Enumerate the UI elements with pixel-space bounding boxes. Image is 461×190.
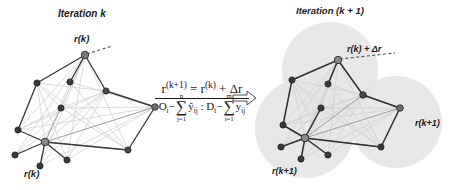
right-label-root-top: r(k) + Δr [347, 44, 381, 54]
num-rhs-exponent: (k) [205, 80, 216, 90]
node-root-top [334, 56, 341, 63]
left-panel-title: Iteration k [58, 8, 106, 19]
formula-fraction: r(k+1) = r(k) + Δr Oi−n∑j=1ŷij : Dt−m∑i=… [155, 80, 250, 116]
node [289, 77, 295, 83]
den-sum1-term-sub: ij [194, 108, 198, 116]
num-plus: + [219, 81, 226, 96]
node [280, 122, 286, 128]
node [378, 144, 384, 150]
den-sum2-symbol: ∑ [223, 98, 234, 115]
figure-canvas: Iteration k Iteration (k + 1) r(k) r(k) … [0, 0, 461, 190]
num-lhs-exponent: (k+1) [166, 80, 187, 90]
right-label-circle-bottom: r(k+1) [272, 166, 297, 176]
den-sum2-lower: i=1 [225, 116, 234, 121]
right-label-circle-right: r(k+1) [415, 118, 440, 128]
node [397, 105, 404, 112]
den-sum1-lower: j=1 [177, 116, 186, 121]
right-panel-title: Iteration (k + 1) [296, 5, 364, 16]
formula-denominator: Oi−n∑j=1ŷij : Dt−m∑i=1yij [155, 99, 250, 115]
den-sum1-upper: n [180, 93, 183, 98]
den-minus-1: − [169, 100, 175, 112]
den-sum2-upper: m [227, 93, 232, 98]
node [360, 92, 367, 99]
left-label-root-bottom: r(k) [24, 168, 39, 179]
den-sum-1: n∑j=1 [176, 101, 187, 114]
node [318, 105, 324, 111]
node [325, 152, 331, 158]
den-minus-2: − [216, 100, 222, 112]
num-equals: = [190, 81, 197, 96]
den-sum-2: m∑i=1 [223, 101, 234, 114]
node-root-bottom [301, 134, 309, 142]
left-label-root-top: r(k) [74, 33, 89, 44]
den-sum1-symbol: ∑ [176, 98, 187, 115]
update-formula: r(k+1) = r(k) + Δr Oi−n∑j=1ŷij : Dt−m∑i=… [146, 80, 258, 116]
den-sum2-term-sub: ij [241, 108, 245, 116]
formula-numerator: r(k+1) = r(k) + Δr [155, 80, 250, 99]
node [278, 144, 284, 150]
den-term1-var: O [159, 100, 167, 112]
node [298, 156, 304, 162]
den-separator: : [200, 100, 203, 112]
node [325, 81, 331, 87]
